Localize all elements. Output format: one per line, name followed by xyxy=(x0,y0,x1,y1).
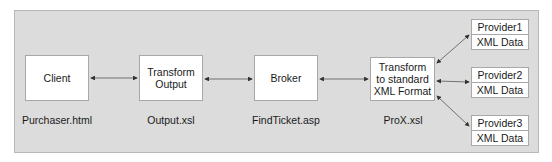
node-provider1: Provider1 XML Data xyxy=(471,19,529,50)
caption-output-xsl: Output.xsl xyxy=(128,114,214,126)
provider-name: Provider1 xyxy=(472,20,528,35)
provider-data: XML Data xyxy=(472,83,528,97)
caption-prox-xsl: ProX.xsl xyxy=(360,114,446,126)
node-transform-standard: Transform to standard XML Format xyxy=(370,57,435,101)
node-client: Client xyxy=(25,55,89,101)
provider-name: Provider3 xyxy=(472,116,528,131)
node-label: Broker xyxy=(271,72,302,84)
provider-data: XML Data xyxy=(472,131,528,145)
node-transform-output: Transform Output xyxy=(139,55,203,101)
provider-name: Provider2 xyxy=(472,68,528,83)
node-label-line: XML Format xyxy=(374,85,431,97)
node-broker: Broker xyxy=(254,55,318,101)
node-label-line: Transform xyxy=(147,66,194,78)
provider-data: XML Data xyxy=(472,35,528,49)
node-label-line: to standard xyxy=(374,73,431,85)
caption-purchaser: Purchaser.html xyxy=(14,114,100,126)
node-label: Client xyxy=(44,72,71,84)
node-provider3: Provider3 XML Data xyxy=(471,115,529,146)
node-provider2: Provider2 XML Data xyxy=(471,67,529,98)
arrow-to-provider1 xyxy=(437,35,469,63)
node-label-line: Output xyxy=(147,78,194,90)
caption-findticket: FindTicket.asp xyxy=(243,114,329,126)
arrow-to-provider2 xyxy=(437,81,469,82)
node-label-line: Transform xyxy=(374,61,431,73)
